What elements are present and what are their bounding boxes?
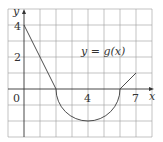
y-tick-4: 4 — [14, 20, 21, 33]
origin-label: 0 — [13, 92, 20, 105]
function-label: y = g(x) — [80, 45, 125, 58]
y-axis-arrow-icon — [22, 9, 26, 14]
x-tick-7: 7 — [132, 92, 139, 105]
x-axis-label: x — [149, 90, 156, 103]
y-axis-label: y — [12, 5, 20, 18]
graph-of-g: y x 0 4 7 4 2 y = g(x) — [0, 0, 163, 142]
y-tick-2: 2 — [14, 51, 21, 64]
x-tick-4: 4 — [84, 92, 91, 105]
grid — [8, 9, 152, 137]
